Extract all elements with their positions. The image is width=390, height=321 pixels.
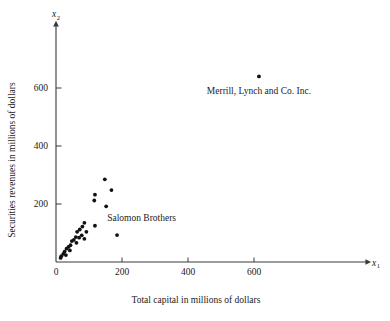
plot-canvas: 0200400600200400600 Merrill, Lynch and C… bbox=[0, 0, 390, 321]
x-tick-label-400: 400 bbox=[181, 267, 196, 277]
x-axis-symbol: x1 bbox=[371, 258, 380, 270]
annotation-merrill-lynch: Merrill, Lynch and Co. Inc. bbox=[207, 86, 311, 96]
data-point bbox=[84, 230, 88, 234]
data-point-salomon-brothers bbox=[115, 233, 119, 237]
axis-titles-group: x1x2Total capital in millions of dollars… bbox=[7, 9, 380, 305]
data-point bbox=[77, 236, 81, 240]
data-point bbox=[104, 204, 108, 208]
x-axis-title: Total capital in millions of dollars bbox=[132, 295, 261, 305]
data-point bbox=[75, 230, 79, 234]
x-tick-label-600: 600 bbox=[247, 267, 262, 277]
data-point bbox=[68, 249, 72, 253]
data-point bbox=[92, 199, 96, 203]
data-point bbox=[93, 224, 97, 228]
data-point bbox=[81, 225, 85, 229]
y-tick-label-400: 400 bbox=[34, 141, 49, 151]
ticks-group bbox=[56, 88, 254, 262]
x-tick-label-200: 200 bbox=[115, 267, 130, 277]
data-point bbox=[75, 241, 79, 245]
data-point bbox=[110, 188, 114, 192]
axes-group bbox=[56, 26, 366, 262]
y-tick-label-200: 200 bbox=[34, 199, 49, 209]
data-points-group bbox=[59, 75, 261, 260]
x-tick-label-0: 0 bbox=[54, 267, 59, 277]
data-point-merrill-lynch-and-co-inc bbox=[257, 75, 261, 79]
data-point bbox=[82, 221, 86, 225]
annotation-salomon-brothers: Salomon Brothers bbox=[107, 213, 176, 223]
y-tick-label-600: 600 bbox=[34, 83, 49, 93]
annotations-group: Merrill, Lynch and Co. Inc.Salomon Broth… bbox=[107, 86, 311, 224]
data-point bbox=[82, 237, 86, 241]
y-axis-symbol: x2 bbox=[51, 9, 60, 21]
data-point bbox=[70, 239, 74, 243]
data-point bbox=[93, 193, 97, 197]
data-point bbox=[59, 256, 63, 260]
data-point bbox=[64, 253, 68, 257]
scatter-plot-figure: 0200400600200400600 Merrill, Lynch and C… bbox=[0, 0, 390, 321]
data-point bbox=[103, 177, 107, 181]
y-axis-title: Securities revenues in millions of dolla… bbox=[7, 82, 17, 238]
